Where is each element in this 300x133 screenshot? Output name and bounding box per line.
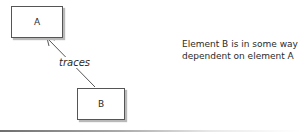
element-a-label: A (34, 17, 40, 27)
element-b-box: B (77, 88, 125, 120)
traces-edge-label: traces (58, 57, 91, 68)
element-b-label: B (98, 99, 104, 109)
element-a-box: A (11, 6, 63, 38)
bottom-divider (0, 130, 300, 132)
dependency-description: Element B is in some way dependent on el… (182, 38, 300, 62)
